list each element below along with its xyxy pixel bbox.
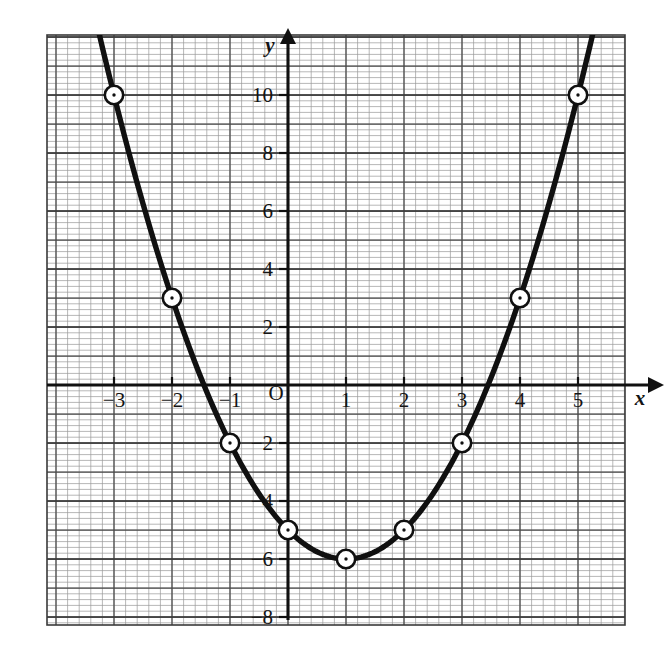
y-tick-label: −4 [251, 489, 274, 513]
y-tick-label: −8 [251, 605, 273, 629]
data-point-marker [221, 434, 239, 452]
y-tick-label: 10 [252, 83, 273, 107]
x-tick-label: 3 [457, 388, 468, 412]
data-point-marker [395, 521, 413, 539]
data-point-marker [453, 434, 471, 452]
x-axis-name-label: x [634, 386, 646, 410]
x-tick-label: 5 [573, 388, 584, 412]
data-point-marker [105, 86, 123, 104]
data-point-marker [337, 550, 355, 568]
data-point-marker [279, 521, 297, 539]
y-tick-label: −2 [251, 431, 273, 455]
x-tick-label: 1 [341, 388, 352, 412]
origin-label: O [268, 381, 283, 405]
data-point-marker [569, 86, 587, 104]
y-tick-label: 2 [263, 315, 274, 339]
data-point-marker [163, 289, 181, 307]
graph-figure: −3−2−112345−8−6−4−2246810 x y O [0, 0, 668, 654]
y-tick-label: 4 [263, 257, 274, 281]
y-tick-label: 8 [263, 141, 274, 165]
x-tick-label: 2 [399, 388, 410, 412]
x-tick-label: −3 [103, 388, 125, 412]
x-tick-label: 4 [515, 388, 526, 412]
x-tick-label: −1 [219, 388, 241, 412]
data-point-marker [511, 289, 529, 307]
parabola-graph: −3−2−112345−8−6−4−2246810 x y O [0, 0, 668, 654]
x-tick-label: −2 [161, 388, 183, 412]
y-tick-label: −6 [251, 547, 273, 571]
y-tick-label: 6 [263, 199, 274, 223]
